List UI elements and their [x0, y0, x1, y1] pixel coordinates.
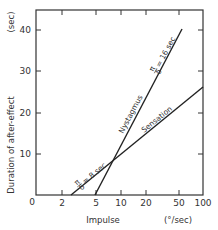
svg-text:= 16 sec: = 16 sec	[154, 35, 178, 69]
svg-text:δ: δ	[153, 67, 163, 76]
x-tick-label: 20	[140, 198, 152, 208]
x-tick-label-origin: 0	[29, 197, 35, 207]
y-tick-label: 20	[20, 108, 32, 118]
svg-text:= 8 sec: = 8 sec	[80, 161, 108, 186]
y-tick-label: 10	[20, 149, 32, 159]
y-axis-ticks	[36, 30, 203, 154]
y-axis-unit: (sec)	[6, 12, 16, 33]
y-tick-label: 40	[20, 25, 32, 35]
y-tick-label: 30	[20, 66, 32, 76]
x-axis-unit: (°/sec)	[164, 215, 192, 225]
x-axis-title: Impulse	[86, 215, 120, 225]
x-axis-ticks	[62, 10, 179, 195]
sensation-label: Sensation	[140, 104, 175, 134]
tc16-annotation: π δ = 16 sec	[147, 33, 180, 76]
x-tick-label: 2	[59, 198, 65, 208]
tc8-annotation: π δ = 8 sec	[72, 158, 110, 193]
x-tick-label: 50	[173, 198, 185, 208]
chart: 40 30 20 10 0 2 5 10 20 50 100 Impulse (…	[0, 0, 218, 230]
y-axis-title: Duration of after-effect	[6, 96, 16, 194]
x-tick-label: 5	[93, 198, 99, 208]
x-tick-label: 100	[194, 198, 211, 208]
x-tick-label: 10	[115, 198, 127, 208]
